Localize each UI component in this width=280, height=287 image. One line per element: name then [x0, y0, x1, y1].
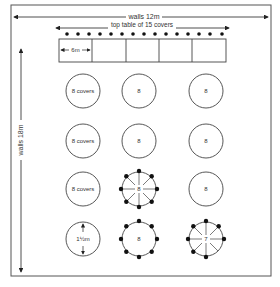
svg-text:8 covers: 8 covers — [72, 88, 95, 94]
top-table: 6m — [59, 39, 226, 62]
room-walls — [11, 5, 271, 276]
walls-width-label: walls 12m — [127, 13, 159, 20]
svg-text:8: 8 — [204, 138, 208, 144]
round-table-r2c1: 8 covers — [66, 124, 100, 158]
round-table-r1c3: 8 — [189, 74, 223, 108]
svg-text:8: 8 — [137, 138, 141, 144]
top-table-seats — [65, 32, 224, 36]
round-table-r3c2-with-seats: 8 — [119, 169, 159, 209]
round-table-r2c2: 8 — [122, 124, 156, 158]
walls-height-dimension: walls 18m — [17, 49, 24, 272]
banquet-floor-plan: walls 12m top table of 15 covers 6m wall… — [0, 0, 280, 287]
svg-text:8 covers: 8 covers — [72, 138, 95, 144]
walls-height-label: walls 18m — [17, 124, 24, 156]
round-table-r4c2-with-seats: 8 — [119, 219, 159, 259]
round-table-r4c3-seven-seats: 7 — [186, 219, 226, 259]
top-table-dimension: top table of 15 covers — [56, 21, 229, 29]
diameter-label: 1½m — [76, 236, 89, 242]
section-length-label: 6m — [71, 47, 79, 53]
top-table-label: top table of 15 covers — [111, 21, 174, 29]
round-table-r1c2: 8 — [122, 74, 156, 108]
round-table-r3c1: 8 covers — [66, 172, 100, 206]
round-table-r1c1: 8 covers — [66, 74, 100, 108]
svg-text:8: 8 — [137, 236, 141, 242]
svg-text:8: 8 — [204, 88, 208, 94]
round-table-r2c3: 8 — [189, 124, 223, 158]
svg-text:8: 8 — [204, 186, 208, 192]
round-table-r4c1-diameter: 1½m — [66, 222, 100, 256]
svg-text:8 covers: 8 covers — [72, 186, 95, 192]
round-table-r3c3: 8 — [189, 172, 223, 206]
walls-width-dimension: walls 12m — [14, 13, 268, 20]
svg-text:8: 8 — [137, 88, 141, 94]
